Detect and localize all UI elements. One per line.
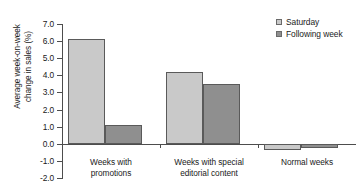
y-axis-tick-label: 0.0 bbox=[8, 139, 54, 149]
x-axis-category-label-line: promotions bbox=[62, 168, 160, 179]
legend-swatch-saturday bbox=[276, 19, 282, 25]
bar bbox=[301, 144, 338, 148]
bar bbox=[68, 39, 105, 143]
y-axis-tick-label: 4.0 bbox=[8, 70, 54, 80]
x-axis-category-label-line: Normal weeks bbox=[258, 157, 356, 168]
y-axis-tick-label: 7.0 bbox=[8, 19, 54, 29]
bar bbox=[166, 72, 203, 144]
legend-item-following-week: Following week bbox=[276, 28, 343, 39]
y-axis-tick-label: 3.0 bbox=[8, 87, 54, 97]
legend: Saturday Following week bbox=[276, 16, 343, 40]
x-axis-category-label-line: editorial content bbox=[160, 168, 258, 179]
legend-item-saturday: Saturday bbox=[276, 16, 343, 27]
x-axis-category-label: Normal weeks bbox=[258, 157, 356, 168]
legend-swatch-following-week bbox=[276, 31, 282, 37]
x-axis-category-label: Weeks with specialeditorial content bbox=[160, 157, 258, 179]
y-axis-tick-label: -2.0 bbox=[8, 173, 54, 183]
legend-label-saturday: Saturday bbox=[286, 17, 319, 27]
x-axis-category-label-line: Weeks with special bbox=[160, 157, 258, 168]
x-axis-category-label: Weeks withpromotions bbox=[62, 157, 160, 179]
y-axis-tick-label: 2.0 bbox=[8, 105, 54, 115]
x-axis-separator bbox=[160, 144, 161, 148]
bar bbox=[264, 144, 301, 150]
x-axis-separator bbox=[258, 144, 259, 148]
bar-chart: Average week-on-week change in sales (%)… bbox=[0, 0, 361, 193]
y-axis-tick-label: -1.0 bbox=[8, 156, 54, 166]
x-axis-category-label-line: Weeks with bbox=[62, 157, 160, 168]
bar bbox=[203, 84, 240, 144]
y-axis-tick-label: 6.0 bbox=[8, 36, 54, 46]
y-axis-line bbox=[62, 24, 63, 179]
y-axis-tick-label: 1.0 bbox=[8, 122, 54, 132]
y-axis-tick-label: 5.0 bbox=[8, 53, 54, 63]
bar bbox=[105, 125, 142, 144]
legend-label-following-week: Following week bbox=[286, 29, 343, 39]
